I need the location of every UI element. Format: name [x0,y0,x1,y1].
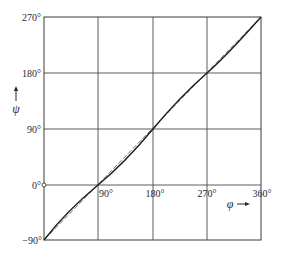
tick-x-270: 270° [198,188,217,199]
tick-y-180: 180° [22,68,41,79]
tick-x-360: 360° [253,188,272,199]
tick-x-180: 180° [146,188,165,199]
tick-y-0: 0° [32,180,41,191]
tick-y-270: 270° [22,12,41,23]
y-axis-label-group: ψ [12,86,20,116]
tick-y-minus-90: −90° [22,235,42,246]
phase-chart: 270° 180° 90° 0° −90° 90° 180° 270° 360°… [0,0,284,258]
y-axis-label: ψ [12,102,20,116]
up-arrowhead-icon [14,86,18,91]
tick-y-90: 90° [27,124,41,135]
tick-x-90: 90° [99,188,113,199]
origin-marker [42,183,46,187]
x-axis-label-group: φ [227,197,250,211]
right-arrowhead-icon [245,202,250,206]
x-axis-label: φ [227,197,234,211]
